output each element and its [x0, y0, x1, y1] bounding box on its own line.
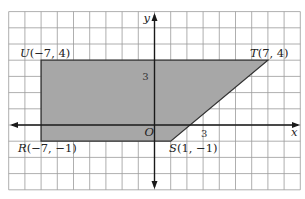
x-tick-label-3: 3 [201, 128, 207, 139]
vertex-label-S: S(1, −1) [169, 141, 217, 155]
y-axis-up-arrow-icon [152, 13, 158, 21]
vertex-label-T: T(7, 4) [250, 46, 289, 60]
x-axis-left-arrow-icon [10, 122, 18, 128]
vertex-label-U: U(−7, 4) [20, 46, 70, 60]
y-axis-down-arrow-icon [152, 181, 158, 189]
y-axis-label: y [143, 11, 151, 25]
coordinate-plane-figure: yxO33U(−7, 4)T(7, 4)S(1, −1)R(−7, −1) [0, 0, 305, 199]
x-axis-label: x [291, 125, 298, 139]
y-tick-label-3: 3 [142, 71, 148, 82]
vertex-label-R: R(−7, −1) [17, 141, 77, 155]
origin-label: O [145, 125, 155, 139]
